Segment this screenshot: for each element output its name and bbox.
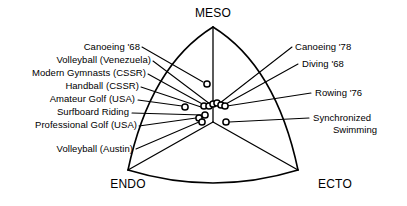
marker-synchronized-swimming: [223, 119, 229, 125]
label-surfboard-riding: Surfboard Riding: [0, 106, 129, 117]
spoke-endo: [128, 122, 213, 170]
label-volleyball-venezuela: Volleyball (Venezuela): [0, 54, 151, 65]
leader-surfboard-riding: [132, 113, 202, 115]
spoke-ecto: [213, 122, 298, 170]
label-diving-68: Diving '68: [302, 58, 407, 69]
axis-label-ecto: ECTO: [305, 177, 365, 191]
marker-rowing-76: [222, 103, 228, 109]
label-handball-cssr: Handball (CSSR): [0, 80, 139, 91]
label-synchronized: Synchronized: [313, 112, 407, 123]
arc-meso-to-endo: [128, 27, 213, 170]
label-canoeing-68: Canoeing '68: [0, 41, 140, 52]
leader-synchronized-swimming: [229, 118, 309, 122]
marker-surfboard-riding: [202, 112, 208, 118]
leader-lines-right: [220, 47, 311, 122]
leader-diving-68: [224, 64, 298, 105]
marker-canoeing-68: [204, 81, 210, 87]
leader-amateur-golf: [138, 100, 182, 106]
label-professional-golf: Professional Golf (USA): [0, 119, 137, 130]
axis-label-meso: MESO: [183, 6, 243, 20]
label-swimming: Swimming: [313, 124, 397, 135]
leader-canoeing-68: [142, 47, 203, 82]
marker-volleyball-austin: [199, 119, 205, 125]
label-canoeing-78: Canoeing '78: [295, 41, 405, 52]
label-rowing-76: Rowing '76: [315, 87, 407, 98]
somatotype-chart: MESO ENDO ECTO Canoeing '68 Volleyball (…: [0, 0, 407, 206]
leader-canoeing-78: [220, 47, 292, 103]
leader-rowing-76: [227, 93, 311, 106]
label-modern-gymnasts: Modern Gymnasts (CSSR): [0, 67, 146, 78]
label-amateur-golf: Amateur Golf (USA): [0, 93, 135, 104]
axis-label-endo: ENDO: [98, 177, 158, 191]
leader-professional-golf: [139, 118, 196, 126]
leader-volleyball-venezuela: [153, 61, 210, 104]
marker-amateur-golf: [182, 104, 188, 110]
label-volleyball-austin: Volleyball (Austin): [0, 143, 133, 154]
